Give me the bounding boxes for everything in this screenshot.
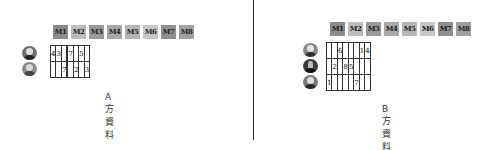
person-avatar-icon: [303, 59, 318, 73]
table-cell: 4: [365, 43, 370, 59]
person-avatar-icon: [303, 43, 318, 57]
party-b-caption: B方資料: [382, 104, 391, 150]
table-cell: [84, 46, 89, 62]
party-a-column-headers: M1 M2 M3 M4 M5 M6 M7 M8: [53, 25, 197, 39]
person-avatar-icon: [22, 62, 37, 76]
table-row: 4 3 7 5: [51, 46, 90, 62]
column-header-m3: M3: [89, 25, 104, 39]
column-header-m7: M7: [161, 25, 176, 39]
column-header-m2: M2: [348, 22, 363, 36]
table-row: 6 1 4: [327, 43, 371, 59]
person-avatar-icon: [22, 46, 37, 60]
column-header-m6: M6: [420, 22, 435, 36]
column-header-m6: M6: [143, 25, 158, 39]
column-header-m1: M1: [53, 25, 68, 39]
column-header-m7: M7: [438, 22, 453, 36]
column-header-m8: M8: [456, 22, 471, 36]
table-row: 7 2 3: [51, 62, 90, 78]
column-header-m4: M4: [384, 22, 399, 36]
column-header-m8: M8: [179, 25, 194, 39]
table-cell: [365, 75, 370, 91]
column-header-m4: M4: [107, 25, 122, 39]
party-b-avatars: [303, 43, 318, 91]
party-a-avatars: [22, 46, 37, 78]
party-b-column-headers: M1 M2 M3 M4 M5 M6 M7 M8: [330, 22, 474, 36]
table-row: 1 7: [327, 75, 371, 91]
column-header-m1: M1: [330, 22, 345, 36]
table-row: 2 8 5: [327, 59, 371, 75]
panel-divider: [253, 0, 254, 140]
party-a-table: 4 3 7 5 7 2 3: [50, 45, 90, 78]
party-a-caption: A方資料: [105, 92, 114, 141]
table-cell: 3: [84, 62, 89, 78]
person-avatar-icon: [303, 75, 318, 89]
column-header-m5: M5: [402, 22, 417, 36]
table-cell: [365, 59, 370, 75]
column-header-m2: M2: [71, 25, 86, 39]
party-b-table: 6 1 4 2 8 5 1 7: [326, 42, 371, 91]
column-header-m3: M3: [366, 22, 381, 36]
column-header-m5: M5: [125, 25, 140, 39]
